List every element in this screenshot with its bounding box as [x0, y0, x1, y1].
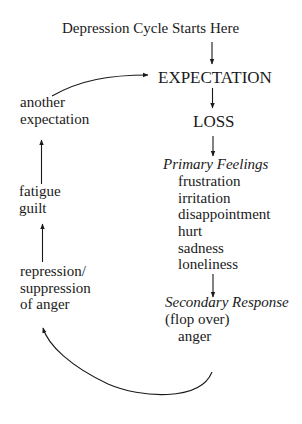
curved-arrow-another-expectation-to-expectation — [52, 75, 148, 96]
another-expectation-line: another — [20, 94, 65, 111]
primary-feeling-item: irritation — [178, 190, 231, 207]
primary-feeling-item: hurt — [178, 223, 202, 240]
primary-feeling-item: loneliness — [178, 256, 238, 273]
repression-line: repression/ — [20, 263, 86, 280]
primary-feelings-heading: Primary Feelings — [163, 156, 268, 173]
repression-line: of anger — [20, 296, 70, 313]
node-loss: LOSS — [193, 112, 235, 131]
secondary-response-note: (flop over) — [165, 311, 230, 328]
primary-feeling-item: disappointment — [178, 206, 271, 223]
fatigue-guilt-line: fatigue — [19, 183, 61, 200]
diagram-title: Depression Cycle Starts Here — [62, 20, 239, 37]
repression-line: suppression — [20, 280, 91, 297]
fatigue-guilt-line: guilt — [19, 200, 47, 217]
node-expectation: EXPECTATION — [158, 68, 272, 87]
secondary-response-item: anger — [178, 328, 211, 345]
primary-feeling-item: sadness — [178, 240, 224, 257]
primary-feeling-item: frustration — [178, 173, 240, 190]
secondary-response-heading: Secondary Response — [165, 294, 289, 311]
another-expectation-line: expectation — [20, 111, 89, 128]
